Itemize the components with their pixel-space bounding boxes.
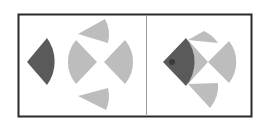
dark-dot [169,59,175,65]
puzzle-figure [0,0,263,121]
